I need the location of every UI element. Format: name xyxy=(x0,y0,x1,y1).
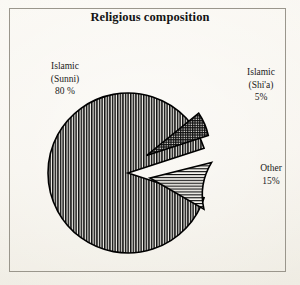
pie-chart xyxy=(0,0,300,285)
slice-label-other-value: 15% xyxy=(246,175,296,188)
slice-label-shia-line2: (Shi'a) xyxy=(228,79,294,92)
slice-label-other-line1: Other xyxy=(246,162,296,175)
slice-label-shia-line1: Islamic xyxy=(228,66,294,79)
slice-label-other: Other 15% xyxy=(246,162,296,187)
slice-label-sunni-line1: Islamic xyxy=(28,60,102,73)
slice-label-shia-value: 5% xyxy=(228,91,294,104)
chart-figure: Religious composition Islamic (Su xyxy=(0,0,300,285)
slice-label-shia: Islamic (Shi'a) 5% xyxy=(228,66,294,104)
slice-label-sunni: Islamic (Sunni) 80 % xyxy=(28,60,102,98)
slice-label-sunni-value: 80 % xyxy=(28,85,102,98)
slice-label-sunni-line2: (Sunni) xyxy=(28,73,102,86)
